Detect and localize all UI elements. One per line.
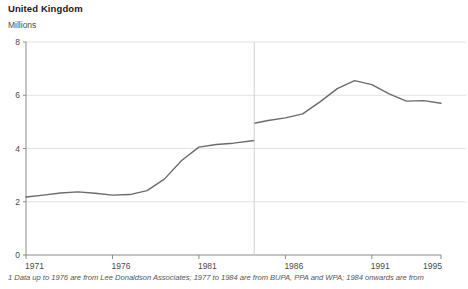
- data-series-group: [26, 81, 441, 197]
- y-tick-label-8: 8: [15, 37, 20, 47]
- x-tick-label-1976: 1976: [111, 261, 130, 271]
- chart-footnote: 1 Data up to 1976 are from Lee Donaldson…: [8, 273, 464, 282]
- x-tick-label-1991: 1991: [371, 261, 390, 271]
- tick-marks-group: [23, 42, 441, 259]
- chart-container: United Kingdom Millions 02468 1971197619…: [0, 0, 468, 289]
- x-tick-label-1995: 1995: [423, 261, 442, 271]
- series-line-2: [254, 81, 441, 124]
- y-tick-label-6: 6: [15, 90, 20, 100]
- x-tick-label-1986: 1986: [284, 261, 303, 271]
- y-axis-tick-labels: 02468: [15, 37, 20, 260]
- line-chart-plot: 02468 197119761981198619911995: [0, 0, 468, 289]
- y-tick-label-4: 4: [15, 144, 20, 154]
- x-tick-label-1981: 1981: [198, 261, 217, 271]
- y-tick-label-0: 0: [15, 250, 20, 260]
- x-axis-tick-labels: 197119761981198619911995: [25, 261, 442, 271]
- x-tick-label-1971: 1971: [25, 261, 44, 271]
- gridlines-group: [26, 42, 466, 202]
- y-tick-label-2: 2: [15, 197, 20, 207]
